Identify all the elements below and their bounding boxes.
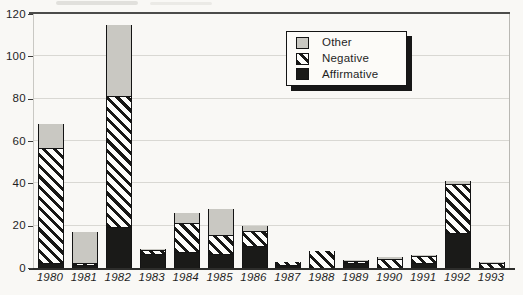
legend: Other Negative Affirmative xyxy=(286,31,407,86)
negative-hatch-swatch-icon xyxy=(296,53,309,65)
bar-1988 xyxy=(309,251,335,268)
bar-segment-negative-1988 xyxy=(310,251,334,268)
bar-segment-affirmative-1986 xyxy=(243,247,267,268)
bar-1990 xyxy=(377,257,403,268)
bar-segment-negative-1986 xyxy=(243,232,267,247)
plot-area xyxy=(33,14,510,268)
y-tick-label: 100 xyxy=(0,50,26,63)
bar-segment-other-1981 xyxy=(73,232,97,264)
bar-1984 xyxy=(174,213,200,268)
scan-artifact xyxy=(150,2,212,5)
bar-1991 xyxy=(411,255,437,268)
y-tick-label: 60 xyxy=(0,135,26,148)
other-swatch-icon xyxy=(296,37,309,49)
y-tick-120 xyxy=(28,14,33,15)
bar-1983 xyxy=(140,249,166,268)
bar-segment-other-1985 xyxy=(209,209,233,237)
y-tick-100 xyxy=(28,56,33,57)
bar-segment-negative-1992 xyxy=(446,185,470,234)
y-tick-label: 120 xyxy=(0,8,26,21)
bar-segment-affirmative-1985 xyxy=(209,255,233,268)
bar-segment-affirmative-1982 xyxy=(107,228,131,268)
bar-segment-affirmative-1984 xyxy=(175,253,199,268)
legend-item-negative: Negative xyxy=(296,52,397,66)
bar-segment-other-1984 xyxy=(175,213,199,224)
y-tick-40 xyxy=(28,183,33,184)
y-tick-label: 80 xyxy=(0,92,26,105)
y-tick-label: 40 xyxy=(0,177,26,190)
affirmative-swatch-icon xyxy=(296,68,309,80)
bar-1981 xyxy=(72,232,98,268)
bar-1986 xyxy=(242,226,268,268)
bar-segment-negative-1990 xyxy=(378,260,402,268)
bar-segment-negative-1980 xyxy=(39,149,63,263)
bar-segment-affirmative-1992 xyxy=(446,234,470,268)
y-tick-0 xyxy=(28,268,33,269)
x-axis-line xyxy=(29,268,515,270)
scan-artifact xyxy=(56,1,138,5)
legend-label: Other xyxy=(322,36,352,49)
bar-segment-other-1980 xyxy=(39,124,63,149)
bar-1989 xyxy=(343,260,369,268)
legend-item-affirmative: Affirmative xyxy=(296,67,397,81)
bar-1980 xyxy=(38,124,64,268)
bar-segment-affirmative-1983 xyxy=(141,255,165,268)
y-tick-20 xyxy=(28,226,33,227)
bar-segment-negative-1984 xyxy=(175,224,199,254)
legend-label: Negative xyxy=(322,52,369,65)
bar-segment-negative-1982 xyxy=(107,97,131,228)
y-tick-80 xyxy=(28,99,33,100)
bar-1985 xyxy=(208,209,234,268)
bar-1992 xyxy=(445,181,471,268)
y-tick-label: 20 xyxy=(0,219,26,232)
bar-segment-negative-1985 xyxy=(209,236,233,255)
bar-segment-other-1982 xyxy=(107,25,131,97)
stacked-bar-chart-figure: 020406080100120 198019811982198319841985… xyxy=(0,0,523,295)
plot-top-border xyxy=(29,12,510,14)
legend-item-other: Other xyxy=(296,36,397,50)
bar-1982 xyxy=(106,25,132,268)
y-tick-label: 0 xyxy=(0,262,26,275)
legend-label: Affirmative xyxy=(322,68,378,81)
y-tick-60 xyxy=(28,141,33,142)
x-tick-label-1993: 1993 xyxy=(471,271,511,283)
